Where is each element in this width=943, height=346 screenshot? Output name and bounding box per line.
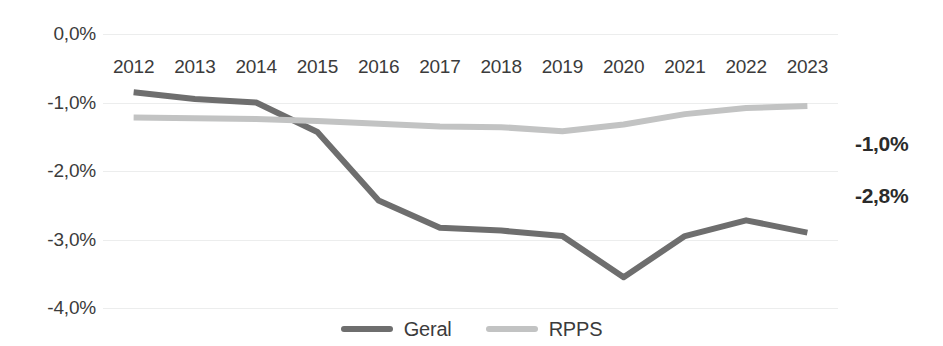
- x-axis-tick-label: 2021: [664, 56, 705, 78]
- plot-area: [103, 0, 838, 320]
- x-axis-tick-label: 2016: [358, 56, 399, 78]
- x-axis-tick-label: 2014: [235, 56, 276, 78]
- x-axis-tick-label: 2017: [419, 56, 460, 78]
- y-axis-tick-label: 0,0%: [10, 23, 96, 45]
- series-line-rpps: [134, 106, 808, 131]
- y-axis-tick-label: -1,0%: [10, 92, 96, 114]
- legend-label: Geral: [404, 318, 452, 341]
- x-axis-tick-label: 2018: [480, 56, 521, 78]
- end-data-label-geral: -2,8%: [855, 184, 908, 208]
- y-axis: 0,0%-1,0%-2,0%-3,0%-4,0%: [0, 0, 96, 320]
- x-axis-tick-label: 2022: [725, 56, 766, 78]
- line-chart: 0,0%-1,0%-2,0%-3,0%-4,0% 201220132014201…: [0, 0, 943, 346]
- x-axis-tick-label: 2019: [542, 56, 583, 78]
- series-layer: [103, 0, 838, 320]
- chart-legend: GeralRPPS: [0, 312, 943, 346]
- legend-item-geral[interactable]: Geral: [341, 318, 452, 341]
- legend-swatch-icon: [341, 326, 393, 332]
- y-axis-tick-label: -2,0%: [10, 160, 96, 182]
- legend-swatch-icon: [486, 326, 538, 332]
- x-axis-tick-label: 2012: [113, 56, 154, 78]
- legend-label: RPPS: [549, 318, 603, 341]
- legend-item-rpps[interactable]: RPPS: [486, 318, 603, 341]
- end-data-label-rpps: -1,0%: [855, 132, 908, 156]
- y-axis-tick-label: -3,0%: [10, 229, 96, 251]
- x-axis-tick-label: 2023: [787, 56, 828, 78]
- x-axis-tick-label: 2013: [174, 56, 215, 78]
- x-axis: 2012201320142015201620172018201920202021…: [103, 56, 838, 82]
- x-axis-tick-label: 2015: [297, 56, 338, 78]
- x-axis-tick-label: 2020: [603, 56, 644, 78]
